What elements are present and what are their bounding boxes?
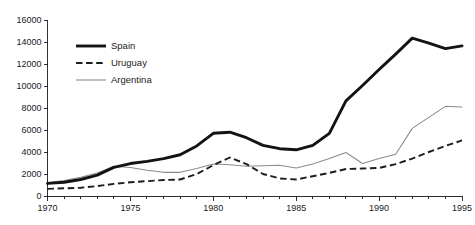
y-tick-label: 0 (36, 191, 41, 201)
x-tick-label: 1995 (452, 203, 472, 213)
y-tick-label: 10000 (16, 81, 41, 91)
y-axis-ticks: 0200040006000800010000120001400016000 (16, 15, 47, 201)
y-tick-label: 2000 (21, 169, 41, 179)
chart-canvas: 0200040006000800010000120001400016000 19… (0, 0, 475, 225)
y-tick-label: 6000 (21, 125, 41, 135)
legend-label-argentina: Argentina (111, 74, 152, 85)
x-axis-ticks: 197019751980198519901995 (37, 196, 472, 213)
legend-label-spain: Spain (111, 40, 135, 51)
y-tick-label: 12000 (16, 59, 41, 69)
y-tick-label: 16000 (16, 15, 41, 25)
series-line-spain (48, 38, 463, 183)
series-line-argentina (48, 106, 463, 182)
y-tick-label: 8000 (21, 103, 41, 113)
legend-label-uruguay: Uruguay (111, 57, 147, 68)
series-group (48, 38, 463, 189)
x-tick-label: 1985 (286, 203, 306, 213)
x-tick-label: 1975 (120, 203, 140, 213)
y-tick-label: 4000 (21, 147, 41, 157)
x-tick-label: 1970 (37, 203, 57, 213)
x-tick-label: 1990 (369, 203, 389, 213)
y-tick-label: 14000 (16, 37, 41, 47)
line-chart: 0200040006000800010000120001400016000 19… (0, 0, 475, 225)
chart-legend: SpainUruguayArgentina (76, 40, 152, 85)
x-tick-label: 1980 (203, 203, 223, 213)
